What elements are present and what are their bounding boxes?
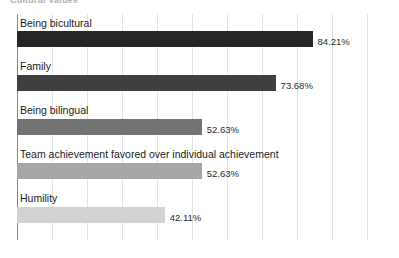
- bars-layer: Being bicultural84.21%Family73.68%Being …: [17, 14, 368, 240]
- bar-value-label: 52.63%: [207, 168, 239, 180]
- chart-title: Cultural Values: [10, 0, 170, 6]
- bar: [17, 119, 202, 135]
- bar-category-label: Being bicultural: [20, 16, 92, 30]
- bar: [17, 31, 313, 47]
- bar-value-label: 73.68%: [281, 80, 313, 92]
- bar-chart: Cultural Values Being bicultural84.21%Fa…: [0, 0, 399, 258]
- bar-value-label: 42.11%: [170, 212, 202, 224]
- bar-category-label: Family: [20, 59, 51, 73]
- bar-value-label: 52.63%: [207, 124, 239, 136]
- bar-category-label: Being bilingual: [20, 103, 88, 117]
- plot-area: Being bicultural84.21%Family73.68%Being …: [17, 14, 368, 240]
- bar: [17, 207, 165, 223]
- bar-category-label: Humility: [20, 191, 57, 205]
- bar: [17, 75, 276, 91]
- bar-value-label: 84.21%: [318, 36, 350, 48]
- bar: [17, 163, 202, 179]
- bar-category-label: Team achievement favored over individual…: [20, 147, 279, 161]
